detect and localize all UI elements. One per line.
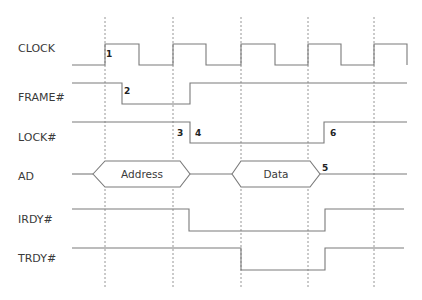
signal-label-clock: CLOCK [18, 42, 56, 55]
annotation-4: 4 [195, 128, 201, 138]
address-phase-label: Address [121, 168, 163, 180]
timing-diagram: CLOCK FRAME# LOCK# AD IRDY# TRDY# Addres… [0, 0, 422, 300]
clock-edge-guides [105, 17, 374, 287]
signal-label-ad: AD [18, 170, 34, 183]
frame-waveform [72, 83, 407, 104]
signal-label-lock: LOCK# [18, 131, 57, 144]
ad-bus: Address Data [72, 161, 407, 187]
annotation-6: 6 [330, 128, 336, 138]
signal-label-irdy: IRDY# [18, 213, 53, 226]
signal-label-trdy: TRDY# [17, 252, 56, 265]
annotation-2: 2 [124, 86, 130, 96]
annotation-3: 3 [177, 128, 183, 138]
lock-waveform [72, 122, 407, 143]
event-annotations: 1 2 3 4 5 6 [106, 49, 336, 173]
annotation-1: 1 [106, 49, 112, 59]
signal-labels: CLOCK FRAME# LOCK# AD IRDY# TRDY# [17, 42, 65, 265]
trdy-waveform [72, 248, 404, 270]
data-phase-label: Data [263, 168, 288, 180]
clock-waveform [72, 44, 407, 65]
signal-label-frame: FRAME# [18, 91, 65, 104]
irdy-waveform [72, 209, 404, 231]
annotation-5: 5 [322, 163, 328, 173]
